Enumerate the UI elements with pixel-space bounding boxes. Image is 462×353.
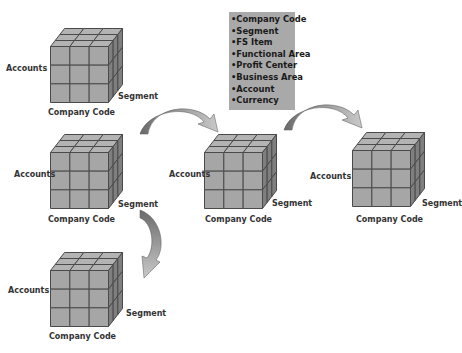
dimension-item: •Segment (231, 26, 295, 38)
cube-y-label: Accounts (14, 170, 55, 179)
cube-center (204, 134, 278, 214)
arrow-right-icon (282, 104, 372, 134)
cube-middle-left (50, 134, 124, 214)
dimension-item: •Company Code (231, 14, 295, 26)
cube-graphic (50, 134, 124, 210)
dimension-item: •Functional Area (231, 49, 295, 61)
cube-x-label: Company Code (48, 108, 115, 117)
dimension-item: •Account (231, 84, 295, 96)
cube-right (352, 132, 426, 212)
cube-x-label: Company Code (356, 215, 423, 224)
arrow-right-icon (138, 108, 228, 138)
arrow-down-icon (138, 208, 168, 280)
cube-graphic (50, 28, 124, 104)
cube-z-label: Segment (126, 309, 166, 318)
cube-y-label: Accounts (169, 170, 210, 179)
cube-z-label: Segment (118, 92, 158, 101)
dimension-item: •Profit Center (231, 60, 295, 72)
cube-z-label: Segment (272, 199, 312, 208)
cube-x-label: Company Code (205, 215, 272, 224)
cube-graphic (352, 132, 426, 208)
cube-top-left (50, 28, 124, 108)
dimension-item: •FS Item (231, 37, 295, 49)
cube-x-label: Company Code (48, 215, 115, 224)
cube-graphic (50, 252, 124, 328)
dimension-list-box: •Company Code •Segment •FS Item •Functio… (229, 12, 295, 110)
cube-graphic (204, 134, 278, 210)
cube-y-label: Accounts (6, 64, 47, 73)
cube-z-label: Segment (422, 199, 462, 208)
cube-y-label: Accounts (310, 172, 351, 181)
dimension-item: •Business Area (231, 72, 295, 84)
cube-x-label: Company Code (49, 332, 116, 341)
cube-y-label: Accounts (8, 286, 49, 295)
cube-bottom-left (50, 252, 124, 332)
